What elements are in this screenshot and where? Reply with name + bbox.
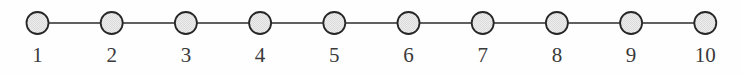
graph-node-label: 10	[695, 43, 716, 67]
graph-node	[694, 12, 716, 34]
graph-node-label: 4	[255, 43, 266, 67]
node-label-layer: 12345678910	[32, 43, 716, 67]
graph-node	[398, 12, 420, 34]
graph-node	[472, 12, 494, 34]
graph-node-label: 7	[477, 43, 488, 67]
graph-node-label: 8	[552, 43, 563, 67]
graph-node	[546, 12, 568, 34]
graph-node	[101, 12, 123, 34]
graph-node	[175, 12, 197, 34]
graph-figure: 12345678910	[0, 0, 743, 75]
graph-node-label: 2	[106, 43, 117, 67]
graph-node	[620, 12, 642, 34]
graph-node-label: 1	[32, 43, 43, 67]
graph-node-label: 6	[403, 43, 414, 67]
graph-node-label: 9	[626, 43, 637, 67]
graph-node-label: 3	[181, 43, 192, 67]
graph-node-label: 5	[329, 43, 340, 67]
graph-canvas: 12345678910	[0, 0, 743, 75]
graph-node	[323, 12, 345, 34]
graph-node	[27, 12, 49, 34]
graph-node	[249, 12, 271, 34]
